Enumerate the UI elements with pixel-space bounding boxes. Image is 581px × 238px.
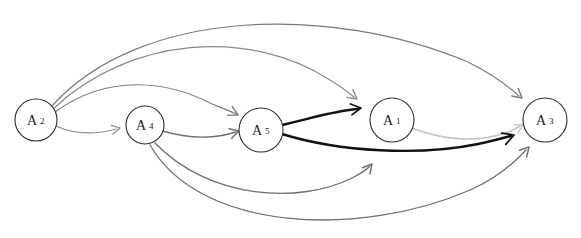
edge-a2-to-a4[interactable] (56, 126, 116, 133)
node-a2[interactable]: A2 (15, 99, 57, 141)
directed-graph: A2A4A5A1A3 (0, 0, 581, 238)
node-a5[interactable]: A5 (239, 108, 283, 152)
node-label-a1: A (383, 113, 394, 128)
node-label-a4: A (136, 118, 147, 133)
node-subscript-a5: 5 (265, 126, 270, 136)
node-a1[interactable]: A1 (370, 98, 414, 142)
node-label-a2: A (27, 113, 38, 128)
node-subscript-a4: 4 (149, 121, 154, 131)
node-subscript-a2: 2 (40, 116, 45, 126)
node-subscript-a3: 3 (549, 116, 554, 126)
nodes-layer: A2A4A5A1A3 (15, 98, 567, 152)
edges-layer (52, 24, 526, 220)
node-label-a3: A (536, 113, 547, 128)
diagram-canvas: A2A4A5A1A3 (0, 0, 581, 238)
node-label-a5: A (252, 123, 263, 138)
node-subscript-a1: 1 (396, 116, 401, 126)
edge-a5-to-a1[interactable] (282, 109, 358, 125)
edge-a4-to-a5[interactable] (163, 131, 236, 137)
arrowheads-layer (111, 88, 532, 174)
edge-a4-to-a3[interactable] (150, 145, 526, 220)
node-a3[interactable]: A3 (523, 98, 567, 142)
node-a4[interactable]: A4 (126, 106, 164, 144)
